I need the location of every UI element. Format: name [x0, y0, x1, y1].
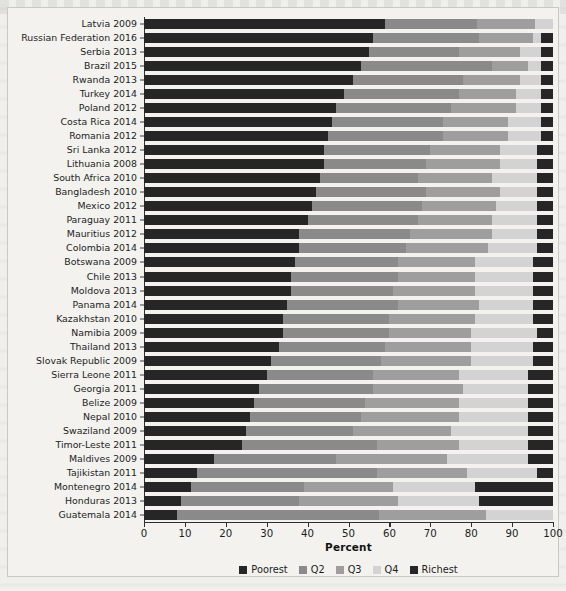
bar-segment-richest [533, 286, 553, 296]
y-axis-label: Mauritius 2012 [67, 230, 137, 239]
legend-item-q3[interactable]: Q3 [336, 565, 362, 575]
stacked-bar [144, 19, 553, 29]
bar-segment-poorest [144, 300, 287, 310]
stacked-bar [144, 328, 553, 338]
bar-segment-q4 [508, 117, 541, 127]
y-axis-label: Tajikistan 2011 [67, 468, 137, 477]
bar-segment-poorest [144, 412, 250, 422]
x-axis-tick [389, 522, 390, 527]
bar-row: Nepal 2010 [144, 410, 553, 424]
legend-swatch-icon [336, 566, 344, 574]
y-axis-label: Botswana 2009 [64, 258, 137, 267]
bar-row: Brazil 2015 [144, 59, 553, 73]
bar-segment-richest [541, 75, 553, 85]
x-axis-tick [185, 522, 186, 527]
bar-segment-q4 [447, 454, 529, 464]
bar-segment-q2 [291, 272, 397, 282]
bar-row: Kazakhstan 2010 [144, 312, 553, 326]
stacked-bar [144, 384, 553, 394]
bar-segment-richest [537, 159, 553, 169]
bar-segment-q3 [389, 314, 475, 324]
y-axis-label: Lithuania 2008 [67, 160, 137, 169]
stacked-bar [144, 117, 553, 127]
legend-swatch-icon [373, 566, 381, 574]
bar-row: Botswana 2009 [144, 255, 553, 269]
x-axis-tick-label: 40 [301, 528, 314, 539]
bar-segment-q2 [369, 47, 459, 57]
bar-segment-q3 [379, 510, 485, 520]
bar-segment-q2 [328, 131, 443, 141]
bar-segment-richest [537, 187, 553, 197]
stacked-bar [144, 89, 553, 99]
y-axis-label: Montenegro 2014 [54, 482, 137, 491]
y-axis-label: Guatemala 2014 [59, 510, 137, 519]
x-axis-tick-label: 90 [506, 528, 519, 539]
bar-row: Serbia 2013 [144, 45, 553, 59]
bar-segment-q4 [471, 342, 532, 352]
bar-row: Latvia 2009 [144, 17, 553, 31]
legend-item-q4[interactable]: Q4 [373, 565, 399, 575]
stacked-bar [144, 398, 553, 408]
bar-segment-q2 [361, 61, 492, 71]
bar-row: Georgia 2011 [144, 382, 553, 396]
bar-segment-richest [541, 89, 553, 99]
bar-segment-q2 [271, 356, 381, 366]
bar-row: Turkey 2014 [144, 87, 553, 101]
legend-item-richest[interactable]: Richest [410, 565, 458, 575]
bar-segment-richest [537, 173, 553, 183]
bar-segment-q3 [393, 286, 475, 296]
stacked-bar [144, 482, 553, 492]
legend-label: Poorest [251, 565, 287, 575]
bar-row: Thailand 2013 [144, 340, 553, 354]
bar-segment-q2 [181, 496, 300, 506]
y-axis-label: Namibia 2009 [71, 328, 137, 337]
bar-segment-richest [541, 47, 553, 57]
bar-row: Poland 2012 [144, 101, 553, 115]
bar-segment-poorest [144, 370, 267, 380]
y-axis-label: Maldives 2009 [69, 454, 137, 463]
bar-segment-q4 [471, 356, 532, 366]
bar-segment-q4 [463, 384, 528, 394]
bar-segment-q2 [283, 328, 389, 338]
bar-segment-q2 [353, 75, 463, 85]
bar-segment-poorest [144, 496, 181, 506]
bar-segment-q3 [477, 19, 534, 29]
bar-segment-poorest [144, 286, 291, 296]
bar-segment-richest [528, 426, 553, 436]
bar-row: Panama 2014 [144, 298, 553, 312]
stacked-bar [144, 468, 553, 478]
bar-segment-q4 [516, 103, 541, 113]
bar-segment-q4 [486, 510, 553, 520]
bar-segment-q4 [467, 468, 537, 478]
stacked-bar [144, 412, 553, 422]
chart-figure: Latvia 2009Russian Federation 2016Serbia… [7, 7, 559, 577]
bar-row: Namibia 2009 [144, 326, 553, 340]
bar-segment-richest [533, 314, 553, 324]
legend-label: Q2 [311, 565, 325, 575]
y-axis-label: Costa Rica 2014 [61, 118, 137, 127]
bar-segment-q4 [496, 201, 537, 211]
bar-segment-richest [537, 243, 553, 253]
bar-segment-q2 [259, 384, 374, 394]
bar-segment-q4 [500, 159, 537, 169]
x-axis-tick [267, 522, 268, 527]
bar-segment-q3 [406, 243, 488, 253]
bar-segment-poorest [144, 356, 271, 366]
legend-label: Richest [422, 565, 458, 575]
legend-item-poorest[interactable]: Poorest [239, 565, 287, 575]
bar-segment-poorest [144, 398, 254, 408]
bar-segment-q2 [254, 398, 364, 408]
y-axis-label: Rwanda 2013 [73, 75, 137, 84]
bar-segment-richest [541, 61, 553, 71]
bar-segment-q3 [459, 47, 520, 57]
bar-segment-richest [533, 272, 553, 282]
legend-item-q2[interactable]: Q2 [299, 565, 325, 575]
bar-segment-q2 [308, 215, 418, 225]
stacked-bar [144, 201, 553, 211]
stacked-bar [144, 286, 553, 296]
bar-segment-q4 [475, 272, 532, 282]
bar-segment-q2 [279, 342, 385, 352]
bar-segment-poorest [144, 131, 328, 141]
x-axis-tick [512, 522, 513, 527]
bar-segment-poorest [144, 215, 308, 225]
